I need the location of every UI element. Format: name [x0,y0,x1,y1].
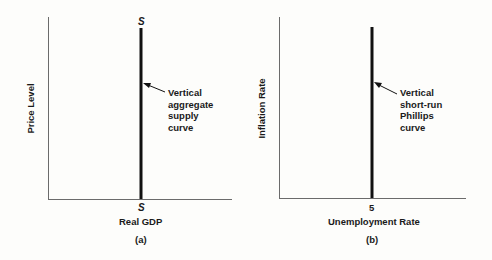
panel-a-caption: (a) [135,234,147,245]
annotation-line: curve [168,122,213,134]
annotation-line: Vertical [400,87,442,99]
annotation-line: Vertical [168,87,213,99]
panel-a-curve-top-label: S [138,16,145,27]
annotation-line: curve [400,122,442,134]
panel-b-arrow-line [379,85,397,94]
annotation-line: supply [168,110,213,122]
panel-b-x-tick-label: 5 [369,202,374,213]
annotation-line: Phillips [400,110,442,122]
panel-b-y-axis-label: Inflation Rate [256,74,267,144]
annotation-line: aggregate [168,99,213,111]
panel-b-annotation: Vertical short-run Phillips curve [400,87,442,133]
panel-a-arrow-line [148,85,165,92]
panel-b-caption: (b) [366,234,378,245]
panel-a-y-axis-label: Price Level [25,79,36,139]
panel-a-arrowhead-icon [143,83,151,88]
panel-a-annotation: Vertical aggregate supply curve [168,87,213,133]
annotation-line: short-run [400,99,442,111]
panel-b-arrowhead-icon [374,82,382,88]
panel-b-x-axis-label: Unemployment Rate [328,216,420,227]
panel-a-curve-bottom-label: S [138,202,145,213]
panel-a-x-axis-label: Real GDP [119,216,162,227]
